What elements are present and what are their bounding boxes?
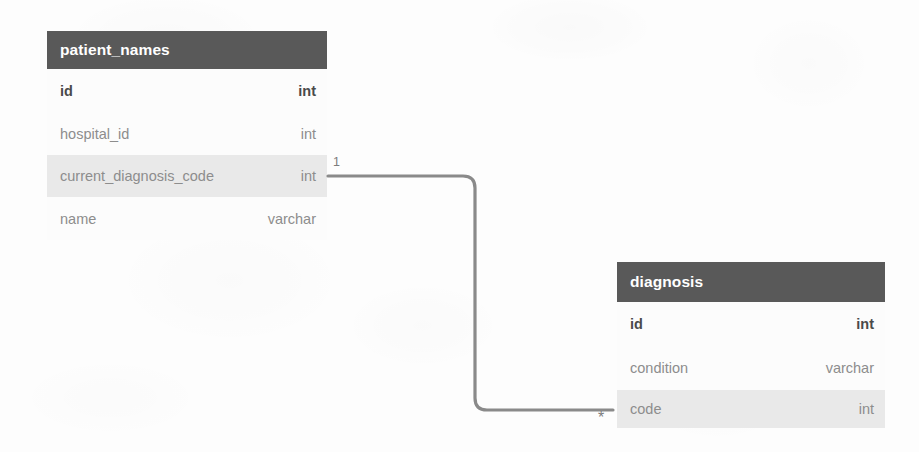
entity-header-diagnosis: diagnosis	[617, 262, 885, 302]
attribute-name: current_diagnosis_code	[60, 168, 214, 184]
attribute-type: int	[301, 168, 316, 184]
attribute-name: hospital_id	[60, 126, 129, 142]
attribute-type: varchar	[826, 360, 874, 376]
entity-header-patient-names: patient_names	[47, 31, 327, 69]
attribute-name: code	[630, 401, 661, 417]
attribute-name: id	[60, 83, 73, 99]
attribute-type: int	[856, 316, 874, 332]
attribute-type: varchar	[268, 211, 316, 227]
attribute-row-code[interactable]: code int	[617, 390, 885, 428]
cardinality-label-target: *	[598, 410, 604, 426]
attribute-row-hospital-id[interactable]: hospital_id int	[47, 112, 327, 155]
entity-diagnosis[interactable]: diagnosis id int condition varchar code …	[617, 262, 885, 428]
cardinality-label-source: 1	[333, 156, 340, 169]
attribute-name: name	[60, 211, 96, 227]
attribute-row-name[interactable]: name varchar	[47, 197, 327, 240]
attribute-row-id[interactable]: id int	[617, 302, 885, 346]
relationship-line	[328, 176, 613, 410]
attribute-type: int	[859, 401, 874, 417]
attribute-name: condition	[630, 360, 688, 376]
attribute-type: int	[298, 83, 316, 99]
attribute-row-id[interactable]: id int	[47, 69, 327, 112]
attribute-name: id	[630, 316, 643, 332]
attribute-type: int	[301, 126, 316, 142]
attribute-row-condition[interactable]: condition varchar	[617, 346, 885, 390]
entity-patient-names[interactable]: patient_names id int hospital_id int cur…	[47, 31, 327, 240]
attribute-row-current-diagnosis-code[interactable]: current_diagnosis_code int	[47, 155, 327, 197]
er-diagram-canvas: patient_names id int hospital_id int cur…	[0, 0, 919, 452]
